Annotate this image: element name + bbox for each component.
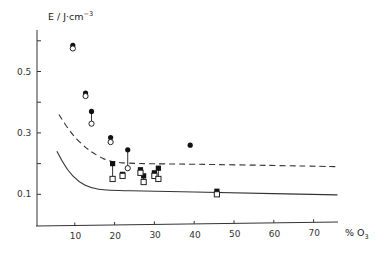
y-axis-title: E / J·cm−3 — [48, 10, 93, 22]
scatter-chart: 0.10.30.510203040506070 E / J·cm−3 % O3 — [0, 0, 386, 258]
open-circle-marker — [108, 140, 113, 145]
curves — [57, 114, 338, 194]
solid-curve — [57, 151, 338, 195]
open-circle-marker — [70, 46, 75, 51]
filled-square-marker — [110, 161, 115, 166]
x-tick-label: 40 — [189, 230, 201, 240]
y-tick-label: 0.3 — [17, 128, 31, 138]
open-square-marker — [120, 173, 125, 178]
filled-circle-marker — [125, 147, 130, 152]
filled-circle-marker — [89, 109, 94, 114]
open-square-marker — [214, 192, 219, 197]
x-tick-label: 60 — [269, 229, 281, 239]
x-axis-title: % O3 — [345, 227, 369, 241]
x-tick-label: 10 — [70, 231, 82, 241]
connector-lines — [73, 45, 217, 194]
axis-labels: 0.10.30.510203040506070 — [17, 67, 320, 242]
open-square-marker — [141, 179, 146, 184]
open-circle-marker — [83, 93, 88, 98]
open-circle-marker — [125, 166, 130, 171]
open-square-marker — [138, 170, 143, 175]
x-tick-label: 20 — [110, 231, 122, 241]
open-square-marker — [156, 176, 161, 181]
markers — [70, 43, 219, 197]
open-circle-marker — [89, 121, 94, 126]
filled-circle-marker — [188, 143, 193, 148]
x-tick-label: 70 — [309, 228, 321, 238]
x-tick-label: 50 — [229, 229, 241, 239]
x-axis-line — [36, 222, 338, 226]
open-square-marker — [110, 176, 115, 181]
dashed-curve — [59, 114, 338, 166]
y-tick-label: 0.1 — [17, 189, 31, 199]
x-tick-label: 30 — [149, 230, 161, 240]
filled-square-marker — [156, 166, 161, 171]
y-tick-label: 0.5 — [17, 67, 31, 77]
axes — [36, 30, 338, 226]
